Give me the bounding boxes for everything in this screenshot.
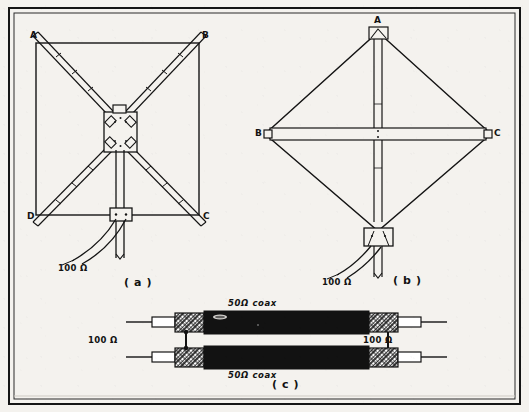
panel-c-top-coax-label: 50Ω coax xyxy=(228,299,277,308)
panel-a-center-hub xyxy=(104,105,137,152)
panel-b-impedance-label: 100 Ω xyxy=(322,278,351,287)
panel-b-feed-box xyxy=(364,228,393,246)
panel-b-label-A: A xyxy=(374,16,381,25)
panel-c-left-impedance-label: 100 Ω xyxy=(88,336,117,345)
panel-c-caption: ( c ) xyxy=(272,379,299,390)
panel-a-label-A: A xyxy=(30,31,37,40)
panel-a-caption: ( a ) xyxy=(124,277,152,288)
panel-a-label-C: C xyxy=(203,212,210,221)
panel-a-label-D: D xyxy=(27,212,35,221)
panel-b-label-B: B xyxy=(255,129,262,138)
panel-c-bottom-coax-label: 50Ω coax xyxy=(228,371,277,380)
panel-b-horizontal-spreader xyxy=(264,128,492,140)
panel-b-label-C: C xyxy=(494,129,501,138)
figure-canvas: A B C D 100 Ω ( a ) A B C 100 Ω ( b ) 50… xyxy=(0,0,529,412)
antenna-diagram-svg xyxy=(0,0,529,412)
panel-b-caption: ( b ) xyxy=(393,275,422,286)
panel-b-top-cap xyxy=(369,27,388,39)
panel-c-right-impedance-label: 100 Ω xyxy=(363,336,392,345)
panel-a-label-B: B xyxy=(202,31,209,40)
panel-a-impedance-label: 100 Ω xyxy=(58,264,87,273)
panel-a-feed-box xyxy=(110,208,132,221)
